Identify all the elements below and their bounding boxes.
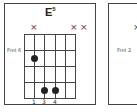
fretboard-grid: [24, 34, 76, 99]
mute-icon: ×: [133, 23, 137, 32]
finger-dot: [31, 55, 38, 62]
chord-diagram-partial: × Fret 2: [108, 3, 137, 105]
fret-line: [24, 34, 76, 35]
finger-number: 1: [32, 99, 36, 105]
finger-number: 4: [53, 99, 57, 105]
chord-quality: 5: [52, 6, 55, 12]
mute-icon-string-1: ×: [30, 23, 38, 32]
finger-number: 3: [42, 99, 46, 105]
finger-dot: [52, 87, 59, 94]
mute-icon-string-6: ×: [80, 23, 88, 32]
finger-dot: [41, 87, 48, 94]
fret-line: [24, 82, 76, 83]
chord-diagram-e5: E5 × × × Fret 6 1 3 4: [4, 3, 96, 105]
chord-title: E5: [45, 6, 56, 18]
fret-label: Fret 6: [7, 47, 21, 53]
fret-line: [24, 66, 76, 67]
fret-label: Fret 2: [117, 47, 131, 53]
fret-line: [24, 50, 76, 51]
mute-icon-string-5: ×: [70, 23, 78, 32]
